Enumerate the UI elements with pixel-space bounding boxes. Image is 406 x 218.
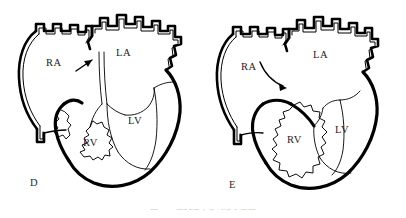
figure-root: RA LA RV LV D bbox=[0, 0, 406, 218]
label-ra-e: RA bbox=[241, 61, 257, 72]
label-ra-d: RA bbox=[46, 57, 62, 68]
left-atrium-wall-e bbox=[289, 17, 378, 72]
septum-and-valves-d bbox=[90, 52, 174, 170]
panel-letter-d: D bbox=[30, 177, 38, 188]
panel-letter-e: E bbox=[229, 179, 235, 190]
septum-and-valves-e bbox=[289, 91, 360, 175]
label-rv-e: RV bbox=[287, 134, 302, 145]
panel-d: RA LA RV LV D bbox=[0, 0, 203, 218]
septum-arrow-d bbox=[76, 60, 92, 71]
ventricular-myocardium-d bbox=[55, 70, 180, 186]
label-lv-d: LV bbox=[128, 115, 142, 126]
ventricular-myocardium-e bbox=[252, 72, 377, 188]
label-la-d: LA bbox=[116, 47, 131, 58]
septum-arrow-e bbox=[260, 62, 287, 91]
left-atrium-wall-d bbox=[92, 15, 181, 70]
panel-e: RA LA RV LV E bbox=[203, 0, 406, 218]
label-lv-e: LV bbox=[335, 124, 349, 135]
label-la-e: LA bbox=[313, 49, 328, 60]
label-rv-d: RV bbox=[83, 137, 98, 148]
